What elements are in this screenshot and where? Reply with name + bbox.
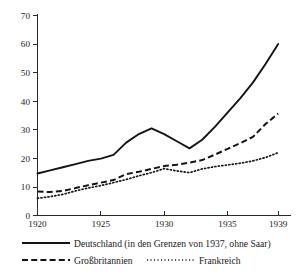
x-tick-label-1925: 1925 [92,219,111,229]
line-chart-svg: 70 60 50 40 30 20 10 0 1920 1925 1930 [0,0,300,232]
legend-label-deutschland-text: Deutschland [74,238,122,249]
legend-label-deutschland: Deutschland (in den Grenzen von 1937, oh… [74,238,271,249]
y-tick-label-10: 10 [21,182,31,192]
legend-entry-grossbritannien: Großbritannien [22,252,133,268]
plot-area: 70 60 50 40 30 20 10 0 1920 1925 1930 [0,0,300,232]
legend-swatch-dotted-icon [147,255,195,265]
legend-row-primary: Deutschland (in den Grenzen von 1937, oh… [0,235,300,251]
legend-row-secondary: Großbritannien Frankreich [0,252,300,268]
legend-entry-deutschland: Deutschland (in den Grenzen von 1937, oh… [22,235,271,251]
x-axis-ticks [38,211,279,216]
y-axis-tick-labels: 70 60 50 40 30 20 10 0 [21,11,31,221]
legend-label-grossbritannien: Großbritannien [74,255,133,266]
chart-legend: Deutschland (in den Grenzen von 1937, oh… [0,234,300,276]
y-tick-label-30: 30 [21,125,31,135]
legend-entry-frankreich: Frankreich [147,252,241,268]
series-line-deutschland [38,44,279,173]
series-line-frankreich [38,153,279,199]
y-tick-label-40: 40 [21,97,31,107]
legend-label-frankreich: Frankreich [199,255,241,266]
legend-note-deutschland: (in den Grenzen von 1937, ohne Saar) [122,238,271,249]
x-tick-label-1920: 1920 [28,219,47,229]
series-line-grossbritannien [38,114,279,193]
legend-swatch-dashed-icon [22,255,70,265]
y-tick-label-50: 50 [21,68,31,78]
y-tick-label-70: 70 [21,11,31,21]
x-tick-label-1930: 1930 [155,219,174,229]
chart-figure: 70 60 50 40 30 20 10 0 1920 1925 1930 [0,0,300,276]
x-axis-tick-labels: 1920 1925 1930 1935 1939 [28,219,287,229]
y-tick-label-60: 60 [21,39,31,49]
y-tick-label-20: 20 [21,154,31,164]
legend-swatch-solid-icon [22,238,70,248]
x-tick-label-1939: 1939 [269,219,288,229]
y-axis-ticks [33,16,38,216]
x-tick-label-1935: 1935 [218,219,237,229]
